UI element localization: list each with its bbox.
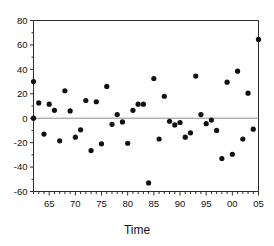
data-point (162, 94, 167, 99)
data-point (57, 138, 62, 143)
x-axis-tick-label: 80 (122, 198, 133, 209)
data-point (78, 127, 83, 132)
data-point (251, 127, 256, 132)
data-point (83, 98, 88, 103)
data-point (225, 80, 230, 85)
y-axis-tick-label: -40 (14, 161, 28, 172)
data-point (146, 180, 151, 185)
data-point (240, 136, 245, 141)
y-axis-ticks (30, 21, 34, 192)
data-point (41, 131, 46, 136)
data-point (172, 122, 177, 127)
data-point-markers (31, 37, 261, 186)
plot-frame (34, 21, 259, 192)
data-point (256, 37, 261, 42)
y-axis-tick-label: 60 (17, 39, 28, 50)
data-point (62, 88, 67, 93)
x-axis-ticks (34, 192, 259, 196)
data-point (109, 122, 114, 127)
x-axis-tick-labels: 657075808590950005 (44, 198, 264, 209)
x-axis-tick-label: 00 (227, 198, 238, 209)
data-point (245, 91, 250, 96)
x-axis-tick-label: 65 (44, 198, 55, 209)
data-point (214, 128, 219, 133)
x-axis-tick-label: 95 (201, 198, 212, 209)
x-axis-tick-label: 05 (253, 198, 264, 209)
x-axis-tick-label: 70 (70, 198, 81, 209)
data-point (230, 152, 235, 157)
data-point (73, 135, 78, 140)
chart-canvas: 806040200-20-40-60 657075808590950005 Ti… (0, 0, 274, 246)
data-point (151, 76, 156, 81)
data-point (36, 100, 41, 105)
x-axis-tick-label: 85 (149, 198, 160, 209)
data-point (141, 102, 146, 107)
data-point (193, 73, 198, 78)
data-point (188, 130, 193, 135)
data-point (94, 99, 99, 104)
data-point (235, 69, 240, 74)
data-point (204, 121, 209, 126)
data-point (104, 84, 109, 89)
data-point (99, 141, 104, 146)
y-axis-tick-labels: 806040200-20-40-60 (14, 15, 28, 197)
x-axis-tick-label: 90 (175, 198, 186, 209)
y-axis-tick-label: 0 (22, 113, 27, 124)
data-point (198, 112, 203, 117)
y-axis-tick-label: 80 (17, 15, 28, 26)
x-axis-title: Time (124, 223, 151, 237)
data-point (209, 117, 214, 122)
data-point (177, 120, 182, 125)
data-point (52, 108, 57, 113)
data-point (125, 141, 130, 146)
data-point (115, 112, 120, 117)
data-point (130, 108, 135, 113)
data-point (219, 156, 224, 161)
y-axis-tick-label: 40 (17, 64, 28, 75)
data-point (88, 148, 93, 153)
data-point (136, 102, 141, 107)
y-axis-tick-label: -20 (14, 137, 28, 148)
data-point (31, 116, 36, 121)
data-point (167, 119, 172, 124)
data-point (156, 136, 161, 141)
data-point (68, 108, 73, 113)
data-point (183, 135, 188, 140)
y-axis-tick-label: -60 (14, 186, 28, 197)
data-point (120, 119, 125, 124)
y-axis-tick-label: 20 (17, 88, 28, 99)
data-point (47, 102, 52, 107)
scatter-plot-figure: 806040200-20-40-60 657075808590950005 Ti… (0, 0, 274, 246)
data-point (31, 79, 36, 84)
x-axis-tick-label: 75 (96, 198, 107, 209)
